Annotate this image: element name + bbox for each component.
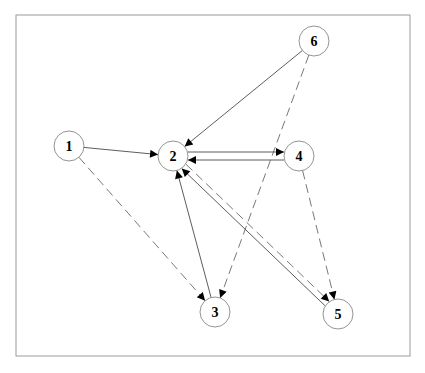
edge-6-to-2 [185, 50, 303, 146]
edge-5-to-2 [182, 169, 325, 306]
node-2: 2 [158, 141, 188, 171]
edge-6-to-3 [220, 55, 309, 298]
node-label: 6 [311, 34, 318, 49]
node-label: 3 [212, 305, 219, 320]
edge-1-to-3 [79, 157, 205, 300]
node-label: 2 [170, 149, 177, 164]
node-1: 1 [54, 131, 84, 161]
node-3: 3 [200, 297, 230, 327]
directed-graph: 123456 [0, 0, 425, 373]
node-4: 4 [284, 141, 314, 171]
edge-3-to-2 [177, 170, 211, 297]
edges-layer [79, 50, 334, 305]
node-5: 5 [323, 299, 353, 329]
node-6: 6 [299, 26, 329, 56]
node-label: 4 [296, 149, 303, 164]
edge-2-to-5 [186, 164, 329, 301]
node-label: 5 [335, 307, 342, 322]
edge-1-to-2 [84, 147, 158, 154]
nodes-layer: 123456 [54, 26, 353, 329]
node-label: 1 [66, 139, 73, 154]
edge-4-to-5 [303, 171, 335, 300]
